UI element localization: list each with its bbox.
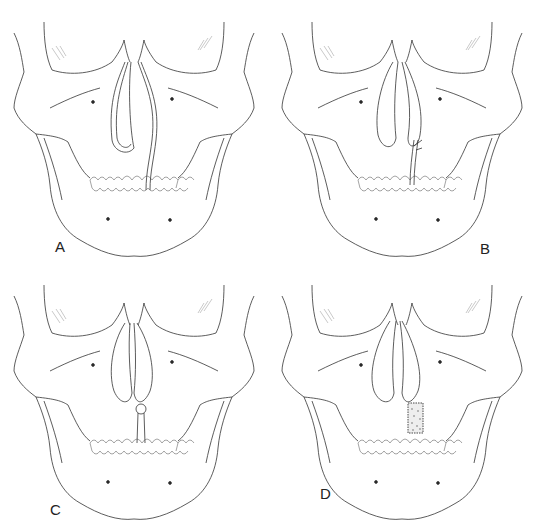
panel-label-b: B bbox=[480, 240, 490, 257]
skull-diagram-c bbox=[0, 263, 268, 526]
panel-d: D bbox=[268, 263, 536, 526]
skull-diagram-d bbox=[268, 263, 536, 526]
panel-b: B bbox=[268, 0, 536, 263]
panel-label-d: D bbox=[320, 485, 331, 502]
panel-c: C bbox=[0, 263, 268, 526]
dressing-block bbox=[408, 403, 423, 433]
panel-label-a: A bbox=[55, 238, 65, 255]
skull-diagram-a bbox=[0, 0, 268, 263]
nasal-tube-c bbox=[111, 323, 152, 443]
panel-label-c: C bbox=[50, 501, 61, 518]
nasal-tube-a bbox=[111, 62, 157, 190]
panel-a: A bbox=[0, 0, 268, 263]
nasal-tube-d bbox=[372, 321, 420, 402]
skull-diagram-b bbox=[268, 0, 536, 263]
nasal-tube-b bbox=[377, 62, 422, 185]
